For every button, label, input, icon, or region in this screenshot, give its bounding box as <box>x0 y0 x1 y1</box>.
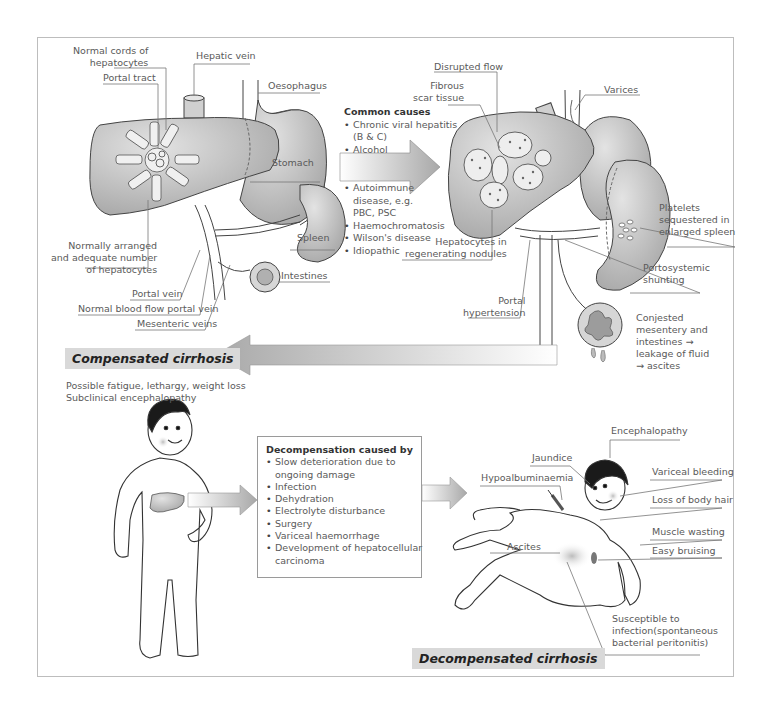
decompensation-title: Decompensation caused by <box>266 444 413 456</box>
label-loss-body-hair: Loss of body hair <box>652 494 733 506</box>
common-causes-title: Common causes <box>344 106 457 119</box>
label-platelets-sequestered: Platelets sequestered in enlarged spleen <box>659 202 735 238</box>
label-normal-hepatocytes: Normally arranged and adequate number of… <box>51 240 157 276</box>
cause-item: Alcohol <box>344 144 457 157</box>
label-spleen: Spleen <box>297 232 329 244</box>
label-easy-bruising: Easy bruising <box>652 545 716 557</box>
label-variceal-bleeding: Variceal bleeding <box>652 466 734 478</box>
label-oesophagus: Oesophagus <box>268 80 327 92</box>
label-hypoalbuminaemia: Hypoalbuminaemia <box>481 472 573 484</box>
compensated-cirrhosis-title: Compensated cirrhosis <box>65 348 240 369</box>
symptom-line: Possible fatigue, lethargy, weight loss <box>66 380 246 392</box>
label-fibrous-scar: Fibrous scar tissue <box>413 80 464 104</box>
label-congested-mesentery: Conjested mesentery and intestines → lea… <box>636 312 709 372</box>
progression-arrow-left <box>215 335 557 375</box>
label-normal-cords: Normal cords of hepatocytes <box>73 45 148 69</box>
decompensation-item: Electrolyte disturbance <box>266 505 413 517</box>
decompensation-item: Surgery <box>266 518 413 530</box>
label-jaundice: Jaundice <box>532 452 572 464</box>
label-hepatic-vein: Hepatic vein <box>196 50 256 62</box>
label-normal-flow: Normal blood flow portal vein <box>78 303 218 315</box>
decompensation-arrow-out <box>422 477 467 509</box>
cause-item: Haemochromatosis <box>344 220 457 233</box>
decompensation-item: Slow deterioration due to ongoing damage <box>266 456 413 481</box>
compensated-symptoms: Possible fatigue, lethargy, weight loss … <box>66 380 246 404</box>
label-infection-sbp: Susceptible to infection(spontaneous bac… <box>612 613 718 649</box>
label-disrupted-flow: Disrupted flow <box>434 61 503 73</box>
decompensation-causes-box: Decompensation caused by Slow deteriorat… <box>257 436 422 578</box>
cause-item: Chronic viral hepatitis (B & C) <box>344 119 457 144</box>
label-hepatocytes-nodules: Hepatocytes in regenerating nodules <box>405 236 507 260</box>
label-muscle-wasting: Muscle wasting <box>652 526 725 538</box>
decompensation-item: Variceal haemorrhage <box>266 530 413 542</box>
decompensation-item: Infection <box>266 481 413 493</box>
label-portal-tract: Portal tract <box>103 72 156 84</box>
decompensation-item: Development of hepatocellular carcinoma <box>266 542 413 567</box>
label-stomach: Stomach <box>272 157 314 169</box>
decompensation-item: Dehydration <box>266 493 413 505</box>
label-intestines: Intestines <box>281 270 328 282</box>
label-mesenteric-veins: Mesenteric veins <box>137 318 217 330</box>
compensated-person-illustration <box>114 399 212 658</box>
common-causes-list: Common causes Chronic viral hepatitis (B… <box>344 106 457 257</box>
label-portal-hypertension: Portal hypertension <box>463 295 525 319</box>
label-portal-vein: Portal vein <box>132 288 182 300</box>
label-portosystemic-shunting: Portosystemic shunting <box>643 262 710 286</box>
label-ascites: Ascites <box>507 541 541 553</box>
symptom-line: Subclinical encephalopathy <box>66 392 246 404</box>
cause-item: Autoimmune disease, e.g. PBC, PSC <box>344 182 457 220</box>
label-encephalopathy: Encephalopathy <box>611 425 688 437</box>
label-varices: Varices <box>604 84 638 96</box>
decompensated-cirrhosis-title: Decompensated cirrhosis <box>412 648 605 669</box>
